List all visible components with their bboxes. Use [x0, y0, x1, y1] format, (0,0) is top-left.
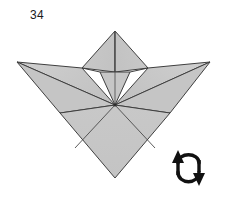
center-vertex-point	[113, 103, 116, 106]
lower-body-panel	[60, 105, 170, 178]
central-upper-triangle	[82, 31, 148, 72]
central-triangle-right-face	[115, 31, 148, 72]
origami-model-drawing	[0, 0, 225, 197]
origami-diagram-figure: 34	[0, 0, 225, 197]
central-triangle-left-face	[82, 31, 115, 72]
lower-body-diamond	[60, 105, 170, 178]
turn-over-symbol	[172, 150, 205, 186]
